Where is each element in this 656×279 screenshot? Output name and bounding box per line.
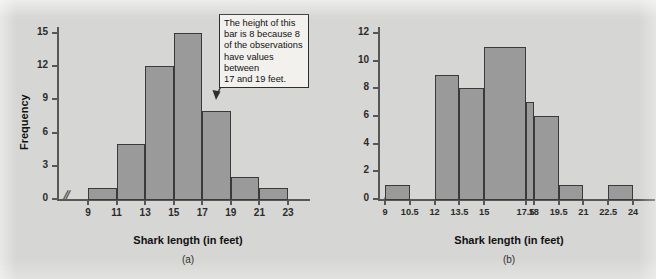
y-tick [373,60,378,62]
y-tick [373,115,378,117]
x-tick [533,200,535,205]
y-tick [373,170,378,172]
annotation-line: bar is 8 because 8 [224,29,304,40]
x-tick [201,200,203,205]
y-tick [52,65,57,67]
histogram-bar [534,116,559,200]
histogram-bar [559,185,584,200]
figure-container: //03691215911131517192123 Frequency Shar… [0,0,656,279]
y-tick-label: 4 [348,137,369,148]
x-tick [87,200,89,205]
y-tick-label: 6 [348,109,369,120]
y-tick-label: 6 [27,126,48,137]
y-tick [373,198,378,200]
x-tick [258,200,260,205]
x-tick [458,200,460,205]
histogram-bar [484,47,525,200]
histogram-bar [526,102,534,200]
histogram-bar [88,188,117,200]
x-tick [525,200,527,205]
y-tick [373,87,378,89]
histogram-bar [117,144,146,200]
x-axis-title-b: Shark length (in feet) [385,234,633,246]
y-tick-label: 12 [27,59,48,70]
y-tick [52,165,57,167]
annotation-line: 17 and 19 feet. [224,74,304,85]
y-axis-title-a: Frequency [18,94,30,150]
y-tick-label: 2 [348,164,369,175]
histogram-bar [174,33,203,200]
histogram-bar [259,188,288,200]
annotation-line: The height of this [224,18,304,29]
y-tick [52,32,57,34]
y-tick-label: 8 [348,81,369,92]
y-tick [52,198,57,200]
y-tick-label: 3 [27,159,48,170]
y-tick [373,32,378,34]
x-tick [483,200,485,205]
x-axis-title-a: Shark length (in feet) [88,234,288,246]
y-tick-label: 12 [348,26,369,37]
x-tick-label: 23 [270,207,306,218]
y-tick [373,143,378,145]
x-tick [144,200,146,205]
x-tick [607,200,609,205]
y-tick [52,132,57,134]
y-tick-label: 15 [27,26,48,37]
histogram-bar [608,185,633,200]
histogram-bar [145,66,174,200]
annotation-line: of the observations [224,40,304,51]
x-tick [384,200,386,205]
x-tick [173,200,175,205]
y-tick-label: 10 [348,54,369,65]
y-tick-label: 0 [27,192,48,203]
panel-caption-a: (a) [88,254,288,265]
y-tick [52,98,57,100]
histogram-bar [385,185,410,200]
y-tick-label: 9 [27,92,48,103]
panel-caption-b: (b) [385,254,633,265]
x-tick-label: 24 [615,207,651,217]
annotation-line: have values between [224,52,304,74]
x-tick [558,200,560,205]
x-tick [632,200,634,205]
x-tick-label: 15 [466,207,502,217]
histogram-bar [202,111,231,201]
annotation-callout-a: The height of thisbar is 8 because 8of t… [219,14,309,88]
histogram-bar [435,75,460,200]
x-tick [116,200,118,205]
y-axis-line [57,27,59,200]
x-tick [582,200,584,205]
panel-a: //03691215911131517192123 Frequency Shar… [0,0,330,279]
x-tick [434,200,436,205]
y-tick-label: 0 [348,192,369,203]
histogram-bar [231,177,260,200]
y-axis-line [378,27,380,200]
x-tick [409,200,411,205]
x-tick [287,200,289,205]
panel-b: //024681012910.51213.51517.51819.52122.5… [330,0,656,279]
histogram-bar [459,88,484,200]
x-tick [230,200,232,205]
